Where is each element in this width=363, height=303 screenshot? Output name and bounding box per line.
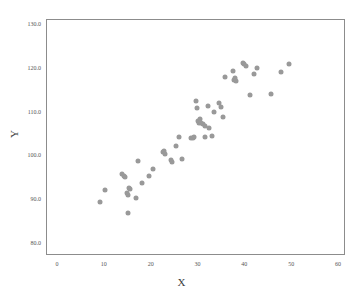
x-tick-label: 20 [148, 261, 154, 267]
x-tick-label: 10 [101, 261, 107, 267]
y-tick-label: 100.0 [0, 152, 41, 158]
x-tick-label: 40 [241, 261, 247, 267]
x-tick-label: 60 [335, 261, 341, 267]
scatter-plot-figure: 80.090.0100.0110.0120.0130.0 01020304050… [0, 0, 363, 303]
x-tick-label: 30 [195, 261, 201, 267]
y-tick-label: 80.0 [0, 240, 41, 246]
plot-area-frame [46, 19, 345, 255]
y-tick-label: 130.0 [0, 21, 41, 27]
x-tick-label: 0 [56, 261, 59, 267]
y-axis-label: Y [8, 114, 20, 154]
x-axis-label: X [0, 276, 363, 288]
y-tick-label: 120.0 [0, 65, 41, 71]
x-tick-label: 50 [288, 261, 294, 267]
y-tick-label: 110.0 [0, 109, 41, 115]
y-tick-label: 90.0 [0, 196, 41, 202]
